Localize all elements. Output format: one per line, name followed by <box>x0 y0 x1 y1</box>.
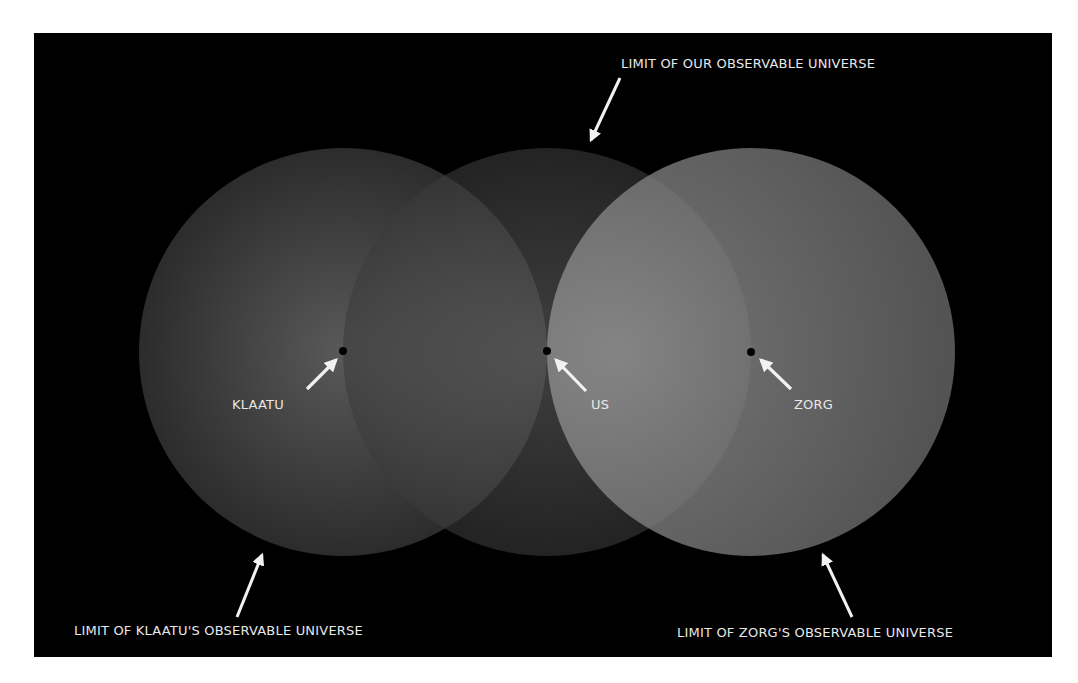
observable-universe-diagram: KLAATU US ZORG LIMIT OF OUR OBSERVABLE U… <box>0 0 1078 683</box>
zorg-point <box>747 348 755 356</box>
us-point <box>543 347 551 355</box>
zorg-label: ZORG <box>794 397 833 412</box>
our-limit-label: LIMIT OF OUR OBSERVABLE UNIVERSE <box>621 56 875 71</box>
klaatu-point <box>339 347 347 355</box>
our-limit-arrow-icon <box>591 78 620 140</box>
zorg-limit-arrow-icon <box>823 555 852 617</box>
klaatu-label: KLAATU <box>232 397 284 412</box>
us-label: US <box>591 397 609 412</box>
zorg-limit-label: LIMIT OF ZORG'S OBSERVABLE UNIVERSE <box>677 625 953 640</box>
klaatu-limit-arrow-icon <box>237 555 262 617</box>
klaatu-limit-label: LIMIT OF KLAATU'S OBSERVABLE UNIVERSE <box>74 623 363 638</box>
